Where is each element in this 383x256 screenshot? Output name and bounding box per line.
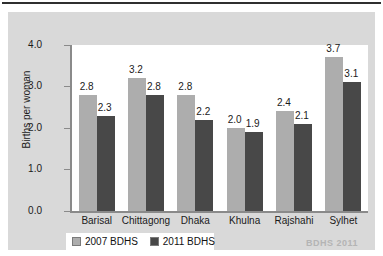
category-label-barisal: Barisal <box>72 215 121 226</box>
chart-figure: Births per woman 4.0 3.0 2.0 1.0 0.0 2.8… <box>0 0 383 256</box>
bar-value-label-chittagong-2007: 3.2 <box>129 65 143 75</box>
source-watermark: BDHS 2011 <box>306 238 358 248</box>
bar-rajshahi-2011 <box>294 124 312 211</box>
bar-barisal-2007 <box>79 95 97 211</box>
chart-legend: 2007 BDHS 2011 BDHS <box>66 233 214 250</box>
bar-value-label-chittagong-2011: 2.8 <box>147 82 161 92</box>
chart-panel: Births per woman 4.0 3.0 2.0 1.0 0.0 2.8… <box>8 12 375 250</box>
bar-dhaka-2011 <box>195 120 213 211</box>
bar-value-label-rajshahi-2007: 2.4 <box>277 98 291 108</box>
legend-item-2011: 2011 BDHS <box>150 236 215 247</box>
y-tick-label-3: 3.0 <box>8 81 42 91</box>
y-tick-label-4: 4.0 <box>8 40 42 50</box>
bar-khulna-2011 <box>245 132 263 211</box>
y-tick-mark-1 <box>64 169 70 170</box>
bar-rajshahi-2007 <box>276 111 294 211</box>
bar-chittagong-2011 <box>146 95 164 211</box>
y-tick-mark-3 <box>64 86 70 87</box>
bar-sylhet-2011 <box>343 82 361 211</box>
top-divider-rule <box>2 2 381 4</box>
y-tick-label-2: 2.0 <box>8 123 42 133</box>
bar-value-label-khulna-2011: 1.9 <box>246 119 260 129</box>
bar-sylhet-2007 <box>325 57 343 211</box>
y-tick-mark-4 <box>64 45 70 46</box>
bar-value-label-barisal-2011: 2.3 <box>98 103 112 113</box>
legend-swatch-2007-icon <box>72 237 81 246</box>
bar-khulna-2007 <box>227 128 245 211</box>
category-label-dhaka: Dhaka <box>171 215 220 226</box>
category-label-rajshahi: Rajshahi <box>269 215 318 226</box>
y-axis-line <box>70 45 72 212</box>
plot-area <box>72 45 368 211</box>
legend-item-2007: 2007 BDHS <box>72 236 138 247</box>
bar-barisal-2011 <box>97 116 115 211</box>
legend-label-2011: 2011 BDHS <box>163 236 215 247</box>
y-tick-mark-2 <box>64 128 70 129</box>
y-tick-label-0: 0.0 <box>8 206 42 216</box>
category-label-sylhet: Sylhet <box>319 215 368 226</box>
y-tick-label-1: 1.0 <box>8 164 42 174</box>
bar-value-label-dhaka-2007: 2.8 <box>178 82 192 92</box>
y-axis-title: Births per woman <box>21 50 32 170</box>
category-label-khulna: Khulna <box>220 215 269 226</box>
bar-value-label-rajshahi-2011: 2.1 <box>295 111 309 121</box>
legend-label-2007: 2007 BDHS <box>85 236 138 247</box>
bar-value-label-barisal-2007: 2.8 <box>80 82 94 92</box>
category-label-chittagong: Chittagong <box>121 215 170 226</box>
legend-swatch-2011-icon <box>150 237 159 246</box>
bar-value-label-khulna-2007: 2.0 <box>228 115 242 125</box>
x-axis-line <box>70 211 368 213</box>
bar-value-label-dhaka-2011: 2.2 <box>196 107 210 117</box>
bar-chittagong-2007 <box>128 78 146 211</box>
bar-value-label-sylhet-2007: 3.7 <box>326 44 340 54</box>
bar-value-label-sylhet-2011: 3.1 <box>344 69 358 79</box>
y-tick-mark-0 <box>64 211 70 212</box>
bar-dhaka-2007 <box>177 95 195 211</box>
